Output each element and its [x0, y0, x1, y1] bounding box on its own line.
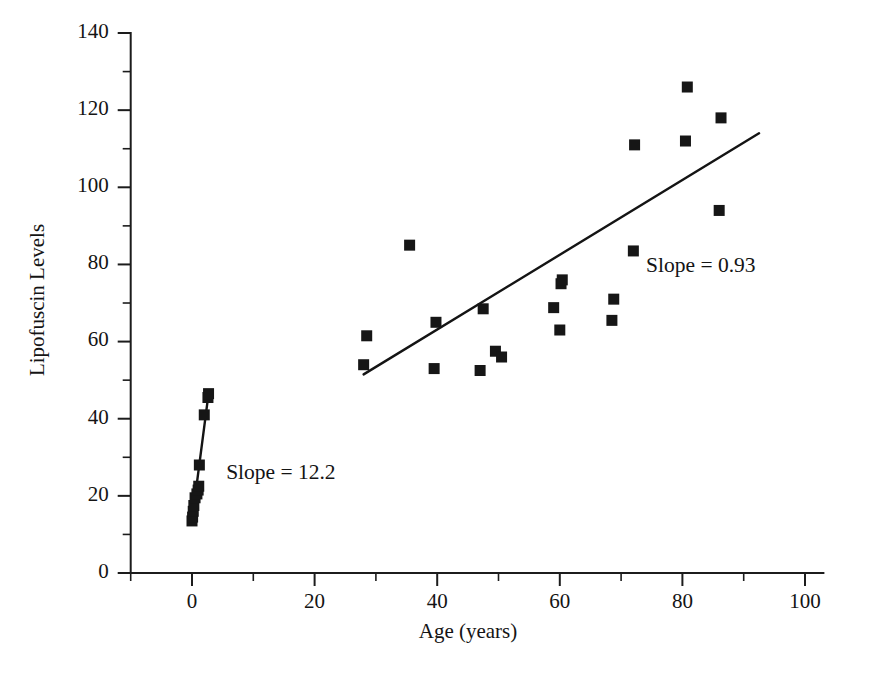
chart-annotations: Slope = 12.2Slope = 0.93: [226, 253, 755, 483]
data-point-marker: [496, 352, 507, 363]
data-point-marker: [608, 294, 619, 305]
data-point-marker: [475, 365, 486, 376]
data-point-marker: [554, 325, 565, 336]
x-tick-label: 40: [427, 589, 448, 613]
slope-adult-label: Slope = 0.93: [646, 253, 755, 277]
x-tick-label: 0: [187, 589, 198, 613]
x-tick-label: 20: [304, 589, 325, 613]
x-tick-label: 80: [672, 589, 693, 613]
data-point-marker: [557, 274, 568, 285]
data-point-marker: [629, 139, 640, 150]
x-tick-label: 60: [549, 589, 570, 613]
plot-surface: 020406080100120140 020406080100 Slope = …: [0, 0, 873, 682]
data-point-marker: [682, 82, 693, 93]
data-point-marker: [548, 302, 559, 313]
data-point-marker: [404, 240, 415, 251]
data-point-marker: [714, 205, 725, 216]
x-axis-tick-labels: 020406080100: [187, 589, 821, 613]
x-tick-label: 100: [789, 589, 821, 613]
data-point-marker: [358, 359, 369, 370]
y-tick-label: 20: [88, 482, 109, 506]
y-axis-tick-labels: 020406080100120140: [77, 19, 109, 583]
data-point-marker: [716, 112, 727, 123]
y-tick-label: 120: [77, 96, 109, 120]
y-tick-label: 140: [77, 19, 109, 43]
data-point-marker: [194, 460, 205, 471]
data-point-marker: [606, 315, 617, 326]
scatter-chart-root: 020406080100120140 020406080100 Slope = …: [0, 0, 873, 682]
data-point-marker: [193, 481, 204, 492]
data-point-marker: [680, 136, 691, 147]
data-point-marker: [478, 303, 489, 314]
y-tick-label: 100: [77, 173, 109, 197]
data-point-marker: [361, 330, 372, 341]
y-tick-label: 80: [88, 250, 109, 274]
y-tick-label: 60: [88, 327, 109, 351]
x-axis-title: Age (years): [419, 619, 518, 643]
data-point-marker: [430, 317, 441, 328]
data-point-marker: [628, 245, 639, 256]
slope-young-label: Slope = 12.2: [226, 460, 335, 484]
regression-lines: [193, 133, 759, 511]
y-axis-title: Lipofuscin Levels: [25, 224, 49, 376]
data-point-marker: [203, 388, 214, 399]
data-point-marker: [429, 363, 440, 374]
y-axis-minor-ticks: [123, 72, 131, 535]
data-point-marker: [199, 409, 210, 420]
y-tick-label: 0: [98, 559, 109, 583]
y-tick-label: 40: [88, 405, 109, 429]
